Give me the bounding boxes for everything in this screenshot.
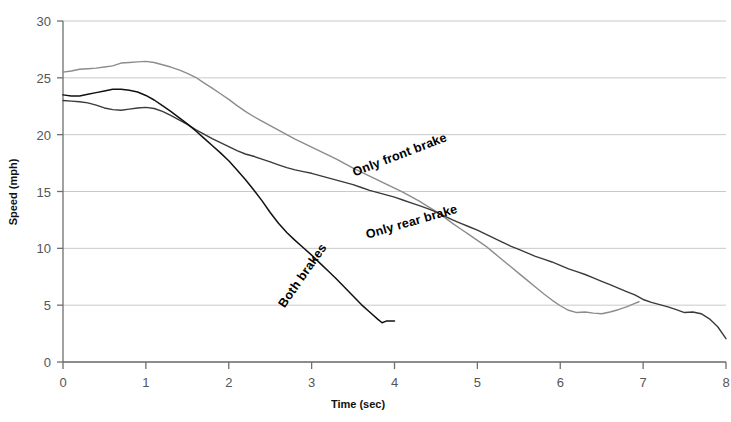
tick-marks	[57, 21, 726, 369]
series-lines	[63, 61, 726, 338]
x-tick-label-0: 0	[59, 375, 66, 390]
x-tick-label-4: 4	[391, 375, 398, 390]
chart-canvas: 051015202530012345678 Only front brakeOn…	[0, 0, 731, 422]
x-tick-label-5: 5	[474, 375, 481, 390]
x-tick-label-3: 3	[308, 375, 315, 390]
y-tick-label-20: 20	[37, 128, 51, 143]
y-tick-label-25: 25	[37, 71, 51, 86]
speed-vs-time-chart: 051015202530012345678 Only front brakeOn…	[0, 0, 731, 422]
tick-labels: 051015202530012345678	[37, 14, 730, 390]
x-tick-label-2: 2	[225, 375, 232, 390]
y-tick-label-5: 5	[44, 298, 51, 313]
series-label-both-brakes: Both brakes	[275, 241, 329, 310]
y-axis-title: Speed (mph)	[7, 158, 19, 225]
x-tick-label-1: 1	[142, 375, 149, 390]
series-label-only-front-brake: Only front brake	[351, 130, 449, 179]
gridlines	[63, 21, 726, 362]
series-label-only-rear-brake: Only rear brake	[364, 202, 459, 242]
x-axis-title: Time (sec)	[331, 398, 386, 410]
x-tick-label-6: 6	[557, 375, 564, 390]
y-tick-label-15: 15	[37, 185, 51, 200]
y-tick-label-10: 10	[37, 241, 51, 256]
y-tick-label-0: 0	[44, 355, 51, 370]
series-line-only-front-brake	[63, 61, 639, 313]
y-tick-label-30: 30	[37, 14, 51, 29]
x-tick-label-8: 8	[722, 375, 729, 390]
series-line-both-brakes	[63, 89, 395, 323]
series-inline-labels: Only front brakeOnly rear brakeBoth brak…	[275, 130, 459, 310]
x-tick-label-7: 7	[640, 375, 647, 390]
